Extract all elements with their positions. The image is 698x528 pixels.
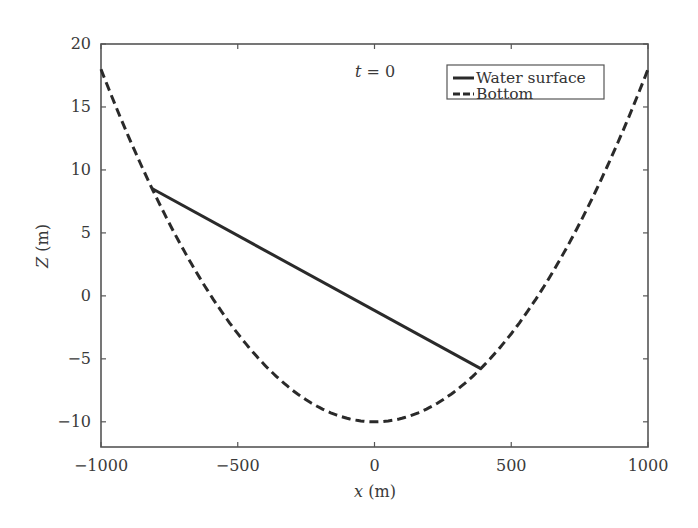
y-tick-label: 5	[81, 223, 91, 242]
x-tick-label: 500	[496, 456, 527, 475]
axes-box	[101, 44, 648, 447]
y-tick-label: 15	[71, 97, 91, 116]
x-axis-label: x (m)	[354, 482, 396, 501]
bottom-line	[101, 69, 648, 422]
x-axis-ticks: −1000−50005001000	[74, 44, 668, 475]
y-tick-label: 20	[71, 34, 91, 53]
x-tick-label: −1000	[74, 456, 128, 475]
legend: Water surfaceBottom	[447, 65, 604, 103]
y-tick-label: 10	[71, 160, 91, 179]
y-tick-label: −5	[67, 349, 91, 368]
legend-label: Bottom	[476, 85, 534, 103]
y-axis-label: Z (m)	[33, 224, 52, 269]
x-tick-label: −500	[216, 456, 260, 475]
chart: −1000−50005001000 −10−505101520 t = 0 x …	[0, 0, 698, 528]
y-tick-label: −10	[57, 412, 91, 431]
x-tick-label: 0	[369, 456, 379, 475]
axes-frame	[101, 44, 648, 447]
time-annotation: t = 0	[355, 62, 395, 81]
plot-area	[101, 69, 648, 422]
x-tick-label: 1000	[628, 456, 669, 475]
y-tick-label: 0	[81, 286, 91, 305]
